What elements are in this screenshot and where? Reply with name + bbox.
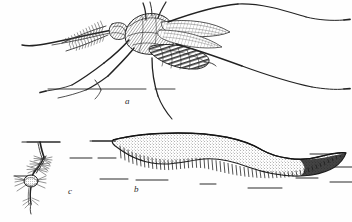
hind-leg-trailing-down bbox=[152, 58, 172, 119]
middle-leg-left bbox=[58, 48, 134, 98]
figure-c-larva bbox=[15, 142, 60, 214]
figure-a-adult-mosquito bbox=[22, 2, 350, 119]
figure-b-egg-raft bbox=[14, 133, 352, 188]
proboscis bbox=[22, 30, 112, 46]
engraving-plate: a b c bbox=[0, 0, 352, 222]
plate-artwork bbox=[0, 0, 352, 222]
figure-label-c: c bbox=[68, 187, 72, 196]
figure-label-a: a bbox=[125, 97, 130, 106]
larva-head bbox=[23, 187, 39, 214]
hind-leg-upper-right bbox=[168, 4, 350, 22]
figure-label-b: b bbox=[134, 185, 139, 194]
foreleg bbox=[40, 40, 129, 93]
respiratory-siphon bbox=[38, 142, 44, 158]
